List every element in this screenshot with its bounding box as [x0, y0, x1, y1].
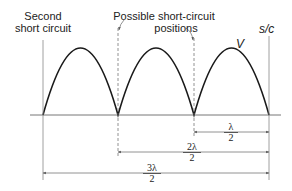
second-short-circuit-label: Second short circuit [4, 10, 82, 34]
voltage-label: V [236, 38, 244, 50]
fraction-denominator: 2 [143, 174, 161, 184]
fraction-denominator: 2 [224, 133, 238, 143]
voltage-curve [43, 48, 269, 115]
label-line: Second [4, 10, 82, 22]
fraction-half-wavelength: λ 2 [224, 122, 238, 143]
label-line: positions [104, 22, 224, 34]
fraction-three-half-wavelengths: 3λ 2 [143, 163, 161, 184]
short-circuit-label: s/c [259, 23, 274, 35]
label-line: Possible short-circuit [104, 10, 224, 22]
possible-positions-label: Possible short-circuit positions [104, 10, 224, 34]
label-line: short circuit [4, 22, 82, 34]
standing-wave-diagram: Second short circuit Possible short-circ… [0, 0, 292, 191]
fraction-two-half-wavelengths: 2λ 2 [183, 142, 201, 163]
fraction-denominator: 2 [183, 153, 201, 163]
